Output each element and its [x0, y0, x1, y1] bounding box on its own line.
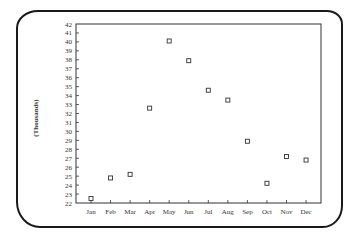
x-tick-label: Dec: [300, 208, 311, 216]
x-tick-label: Jul: [204, 208, 212, 216]
y-tick-label: 37: [65, 65, 73, 73]
x-tick-label: Apr: [144, 208, 156, 216]
data-point: [265, 181, 269, 185]
data-point: [285, 154, 289, 158]
x-tick-label: Sep: [242, 208, 253, 216]
x-tick-label: Aug: [222, 208, 235, 216]
x-tick-label: May: [163, 208, 176, 216]
x-tick-label: Nov: [280, 208, 293, 216]
data-point: [148, 106, 152, 110]
data-point: [89, 197, 93, 201]
y-tick-label: 39: [65, 47, 73, 55]
y-tick-label: 32: [65, 110, 73, 118]
y-tick-label: 42: [65, 21, 73, 29]
y-tick-label: 38: [65, 56, 73, 64]
y-tick-label: 28: [65, 146, 73, 154]
y-tick-label: 35: [65, 83, 73, 91]
data-point: [128, 172, 132, 176]
data-point: [109, 176, 113, 180]
data-point: [206, 88, 210, 92]
y-tick-label: 24: [65, 182, 73, 190]
x-tick-label: Jan: [86, 208, 96, 216]
scatter-chart: 2223242526272829303132333435363738394041…: [0, 0, 355, 235]
y-tick-label: 30: [65, 128, 73, 136]
y-tick-label: 22: [65, 200, 73, 208]
x-tick-label: Oct: [262, 208, 272, 216]
y-tick-label: 26: [65, 164, 73, 172]
data-point: [304, 158, 308, 162]
y-tick-label: 34: [65, 92, 73, 100]
data-point: [226, 98, 230, 102]
y-tick-label: 29: [65, 137, 73, 145]
y-tick-label: 27: [65, 155, 73, 163]
x-tick-label: Feb: [105, 208, 116, 216]
data-point: [187, 59, 191, 63]
y-tick-label: 36: [65, 74, 73, 82]
x-tick-label: Mar: [124, 208, 136, 216]
data-point: [245, 139, 249, 143]
data-point: [167, 39, 171, 43]
y-tick-label: 25: [65, 173, 73, 181]
x-tick-label: Jun: [184, 208, 194, 216]
y-tick-label: 33: [65, 101, 73, 109]
y-axis-label: (Thousands): [32, 99, 40, 137]
y-tick-label: 31: [65, 119, 73, 127]
y-tick-label: 40: [65, 38, 73, 46]
y-tick-label: 41: [65, 29, 73, 37]
y-tick-label: 23: [65, 191, 73, 199]
